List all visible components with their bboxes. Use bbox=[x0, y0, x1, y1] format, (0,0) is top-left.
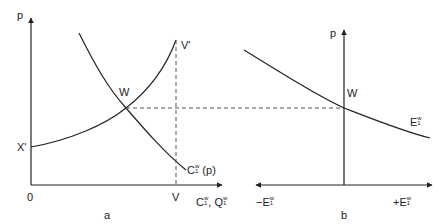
panel-a-demand-curve-label: Cw1 (p) bbox=[187, 165, 216, 176]
panel-b-caption: b bbox=[341, 210, 347, 221]
subscript: 1 bbox=[204, 201, 208, 206]
panel-a-w-label: W bbox=[119, 87, 129, 98]
panel-b-curve-label: Ew1 bbox=[410, 117, 422, 128]
demand-curve-label-arg: (p) bbox=[199, 164, 216, 176]
panel-b-y-axis-label: p bbox=[330, 28, 336, 39]
diagram-canvas bbox=[0, 0, 445, 224]
panel-a-x-prime-label: X' bbox=[17, 142, 26, 153]
panel-b-left-axis-label: −Ew1 bbox=[256, 197, 274, 208]
panel-a-x-axis-label: Cw1, Qw1 bbox=[196, 197, 227, 208]
left-axis-label-e: −E bbox=[256, 196, 270, 208]
demand-curve-label-main: C bbox=[187, 164, 195, 176]
subscript: 1 bbox=[417, 121, 421, 126]
panel-b-w-label: W bbox=[347, 88, 357, 99]
right-axis-label-e: +E bbox=[393, 196, 407, 208]
panel-a-origin-label: 0 bbox=[27, 192, 33, 203]
panel-a-v-prime-label: V' bbox=[181, 40, 190, 51]
x-axis-label-c: C bbox=[196, 196, 204, 208]
subscript: 1 bbox=[223, 201, 227, 206]
panel-a-supply-curve bbox=[31, 40, 176, 147]
x-axis-label-q: Q bbox=[214, 196, 223, 208]
subscript: 1 bbox=[407, 201, 411, 206]
panel-b-excess-curve bbox=[244, 50, 430, 138]
panel-b-right-axis-label: +Ew1 bbox=[393, 197, 411, 208]
panel-a-v-label: V bbox=[172, 192, 179, 203]
subscript: 1 bbox=[270, 201, 274, 206]
panel-a-y-axis-label: p bbox=[17, 10, 23, 21]
subscript: 1 bbox=[195, 169, 199, 174]
panel-a-caption: a bbox=[104, 210, 110, 221]
